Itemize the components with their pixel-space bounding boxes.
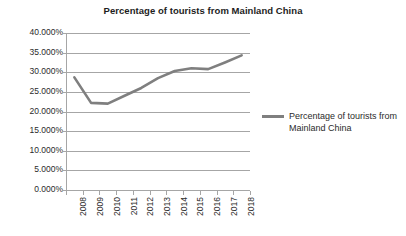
x-axis-tick-mark xyxy=(233,191,234,195)
gridline xyxy=(66,33,250,34)
y-axis-tick-mark xyxy=(62,53,66,54)
x-axis-tick-label: 2011 xyxy=(129,197,139,215)
x-axis-tick-label: 2015 xyxy=(195,197,205,216)
y-axis-tick-mark xyxy=(62,131,66,132)
y-axis-tick-label: 10.000% xyxy=(11,145,63,155)
x-axis-tick-label: 2017 xyxy=(229,197,239,216)
y-axis-tick-mark xyxy=(62,170,66,171)
x-axis-tick-label: 2016 xyxy=(212,197,222,216)
x-axis-tick-mark xyxy=(66,191,67,195)
x-axis-tick-mark xyxy=(133,191,134,195)
y-axis-tick-label: 15.000% xyxy=(11,125,63,135)
plot-area xyxy=(66,33,250,190)
x-axis-tick-label: 2013 xyxy=(162,197,172,216)
gridline xyxy=(66,170,250,171)
x-axis-tick-label: 2012 xyxy=(145,197,155,216)
gridline xyxy=(66,190,250,191)
chart-title: Percentage of tourists from Mainland Chi… xyxy=(0,5,406,16)
gridline xyxy=(66,92,250,93)
y-axis-labels: 0.000%5.000%10.000%15.000%20.000%25.000%… xyxy=(8,33,63,190)
gridline xyxy=(66,131,250,132)
gridline xyxy=(66,112,250,113)
y-axis-tick-label: 25.000% xyxy=(11,86,63,96)
x-axis-tick-label: 2018 xyxy=(246,197,256,216)
legend-entry-label: Percentage of tourists from Mainland Chi… xyxy=(289,110,401,134)
x-axis-tick-label: 2014 xyxy=(179,197,189,216)
x-axis-tick-mark xyxy=(217,191,218,195)
chart-legend: Percentage of tourists from Mainland Chi… xyxy=(262,110,404,134)
x-axis-tick-mark xyxy=(116,191,117,195)
x-axis-tick-label: 2009 xyxy=(95,197,105,216)
chart-container: Percentage of tourists from Mainland Chi… xyxy=(0,0,406,236)
y-axis-tick-mark xyxy=(62,151,66,152)
x-axis-tick-mark xyxy=(150,191,151,195)
y-axis-tick-label: 40.000% xyxy=(11,27,63,37)
x-axis-tick-mark xyxy=(250,191,251,195)
x-axis-tick-mark xyxy=(83,191,84,195)
x-axis-tick-mark xyxy=(99,191,100,195)
legend-color-swatch xyxy=(262,115,284,118)
x-axis-tick-mark xyxy=(200,191,201,195)
x-axis-tick-mark xyxy=(183,191,184,195)
gridline xyxy=(66,72,250,73)
y-axis-tick-label: 30.000% xyxy=(11,66,63,76)
y-axis-tick-label: 20.000% xyxy=(11,106,63,116)
y-axis-tick-label: 5.000% xyxy=(11,164,63,174)
y-axis-tick-label: 35.000% xyxy=(11,47,63,57)
gridline xyxy=(66,151,250,152)
x-axis-tick-label: 2010 xyxy=(112,197,122,216)
y-axis-tick-mark xyxy=(62,72,66,73)
y-axis-tick-label: 0.000% xyxy=(11,184,63,194)
y-axis-tick-mark xyxy=(62,112,66,113)
y-axis-tick-mark xyxy=(62,33,66,34)
x-axis-tick-mark xyxy=(166,191,167,195)
y-axis-line xyxy=(66,33,67,191)
gridline xyxy=(66,53,250,54)
y-axis-tick-mark xyxy=(62,92,66,93)
x-axis-tick-label: 2008 xyxy=(78,197,88,216)
